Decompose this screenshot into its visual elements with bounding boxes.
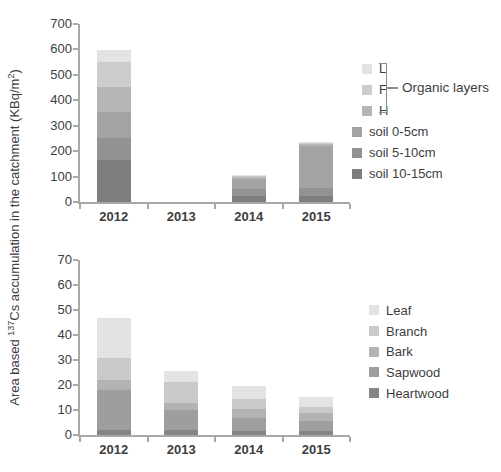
bar-segment-branch bbox=[232, 399, 266, 409]
legend-label-sapwood: Sapwood bbox=[386, 365, 440, 380]
x-tick-label: 2012 bbox=[80, 209, 148, 224]
bar-segment-bark bbox=[97, 380, 131, 390]
x-tick-label: 2013 bbox=[147, 209, 215, 224]
y-tick-mark bbox=[73, 384, 78, 386]
bar-segment-heartwood bbox=[164, 430, 198, 436]
y-tick-mark bbox=[73, 150, 78, 152]
bar-segment-heartwood bbox=[232, 431, 266, 435]
y-tick-mark bbox=[73, 125, 78, 127]
bar-segment-heartwood bbox=[299, 431, 333, 435]
figure: Area based 137Cs accumulation in the cat… bbox=[0, 0, 501, 472]
bar-segment-soil-0-5cm bbox=[299, 146, 333, 188]
bar-segment-leaf bbox=[299, 397, 333, 408]
y-tick-mark bbox=[73, 99, 78, 101]
legend-swatch-h bbox=[362, 106, 372, 116]
legend-swatch-soil-10-15cm bbox=[352, 169, 362, 179]
y-tick-label: 200 bbox=[50, 143, 72, 159]
x-tick-label: 2013 bbox=[147, 442, 215, 457]
bar-segment-soil-5-10cm bbox=[232, 189, 266, 196]
legend-item-soil-10-15cm: soil 10-15cm bbox=[352, 163, 443, 184]
legend-item-branch: Branch bbox=[369, 321, 449, 342]
bar-segment-l bbox=[299, 142, 333, 143]
bottom-chart-plot-area bbox=[78, 260, 350, 437]
legend-swatch-soil-0-5cm bbox=[352, 127, 362, 137]
y-tick-mark bbox=[73, 434, 78, 436]
bar-segment-heartwood bbox=[97, 430, 131, 435]
y-tick-label: 100 bbox=[50, 169, 72, 185]
y-tick-label: 700 bbox=[50, 16, 72, 32]
bar-segment-branch bbox=[97, 358, 131, 381]
y-tick-label: 300 bbox=[50, 118, 72, 134]
y-tick-label: 10 bbox=[58, 402, 72, 418]
y-tick-mark bbox=[73, 176, 78, 178]
y-tick-mark bbox=[73, 284, 78, 286]
legend-swatch-l bbox=[362, 64, 372, 74]
top-chart-y-axis: 0100200300400500600700 bbox=[28, 24, 72, 202]
bar-segment-l bbox=[232, 175, 266, 176]
bar-segment-branch bbox=[164, 382, 198, 403]
y-tick-mark bbox=[73, 48, 78, 50]
legend-swatch-leaf bbox=[369, 305, 379, 315]
y-tick-label: 400 bbox=[50, 92, 72, 108]
y-tick-label: 70 bbox=[58, 252, 72, 268]
y-tick-mark bbox=[73, 259, 78, 261]
x-tick-label: 2012 bbox=[80, 442, 148, 457]
y-tick-mark bbox=[73, 201, 78, 203]
legend-label-leaf: Leaf bbox=[386, 303, 411, 318]
bar-segment-f bbox=[97, 62, 131, 87]
bar-segment-sapwood bbox=[97, 390, 131, 430]
bar-segment-soil-5-10cm bbox=[97, 138, 131, 160]
legend-label-soil-0-5cm: soil 0-5cm bbox=[369, 124, 428, 139]
bar-segment-h bbox=[299, 144, 333, 146]
x-tick-label: 2015 bbox=[282, 442, 350, 457]
bottom-chart-x-axis: 2012201320142015 bbox=[80, 442, 350, 460]
bar-segment-bark bbox=[164, 403, 198, 411]
bar-segment-soil-0-5cm bbox=[232, 179, 266, 189]
legend-label-bark: Bark bbox=[386, 344, 413, 359]
legend-label-soil-5-10cm: soil 5-10cm bbox=[369, 145, 435, 160]
legend-swatch-sapwood bbox=[369, 367, 379, 377]
y-tick-mark bbox=[73, 23, 78, 25]
legend-swatch-soil-5-10cm bbox=[352, 148, 362, 158]
legend-label-branch: Branch bbox=[386, 324, 427, 339]
legend-swatch-bark bbox=[369, 347, 379, 357]
bar-segment-f bbox=[299, 143, 333, 144]
bottom-legend: Leaf Branch Bark Sapwood Heartwood bbox=[369, 300, 449, 403]
y-tick-mark bbox=[73, 334, 78, 336]
legend-swatch-branch bbox=[369, 326, 379, 336]
x-tick-label: 2014 bbox=[215, 442, 283, 457]
bar-segment-branch bbox=[299, 407, 333, 412]
x-tick-label: 2014 bbox=[215, 209, 283, 224]
bar-segment-bark bbox=[299, 413, 333, 421]
bar-segment-sapwood bbox=[232, 418, 266, 431]
legend-swatch-heartwood bbox=[369, 388, 379, 398]
organic-layers-bracket bbox=[379, 63, 387, 113]
bar-segment-bark bbox=[232, 409, 266, 419]
legend-item-leaf: Leaf bbox=[369, 300, 449, 321]
legend-item-soil-5-10cm: soil 5-10cm bbox=[352, 142, 443, 163]
legend-swatch-f bbox=[362, 85, 372, 95]
y-tick-mark bbox=[73, 74, 78, 76]
bar-segment-soil-0-5cm bbox=[97, 112, 131, 138]
bar-segment-soil-5-10cm bbox=[299, 188, 333, 196]
top-chart-plot-area bbox=[78, 24, 350, 204]
top-legend: L F H soil 0-5cm soil 5-10cm soil 10-15c… bbox=[352, 58, 443, 184]
legend-item-sapwood: Sapwood bbox=[369, 362, 449, 383]
y-tick-label: 0 bbox=[65, 194, 72, 210]
bar-segment-l bbox=[97, 50, 131, 62]
legend-item-bark: Bark bbox=[369, 341, 449, 362]
bar-segment-soil-10-15cm bbox=[97, 160, 131, 202]
y-tick-label: 0 bbox=[65, 427, 72, 443]
y-tick-label: 60 bbox=[58, 277, 72, 293]
legend-label-soil-10-15cm: soil 10-15cm bbox=[369, 166, 443, 181]
bar-segment-soil-10-15cm bbox=[299, 196, 333, 202]
bar-segment-sapwood bbox=[164, 410, 198, 430]
y-tick-mark bbox=[73, 359, 78, 361]
bar-segment-h bbox=[97, 87, 131, 112]
organic-layers-label: Organic layers bbox=[402, 80, 489, 95]
organic-layers-bracket-arm bbox=[387, 87, 398, 89]
y-tick-mark bbox=[73, 309, 78, 311]
legend-item-soil-0-5cm: soil 0-5cm bbox=[352, 121, 443, 142]
bar-segment-h bbox=[232, 177, 266, 179]
x-tick-label: 2015 bbox=[282, 209, 350, 224]
